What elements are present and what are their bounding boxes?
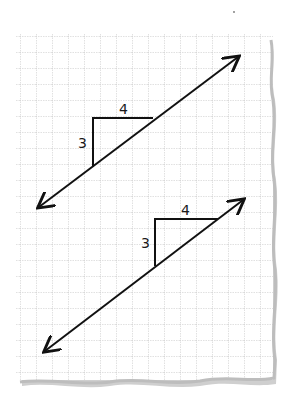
lower-run-label: 4: [181, 202, 190, 218]
paper-speck: [233, 11, 235, 13]
graph-paper-diagram: 3 4 3 4: [0, 0, 282, 403]
upper-rise-label: 3: [78, 135, 87, 151]
upper-run-label: 4: [119, 101, 128, 117]
lower-rise-label: 3: [141, 235, 150, 251]
graph-paper: [16, 33, 278, 387]
